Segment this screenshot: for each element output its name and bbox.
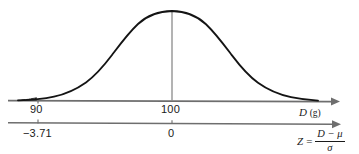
z-formula-fraction: D − μ σ [315, 129, 344, 153]
z-axis-title-variable: Z [297, 136, 303, 147]
d-axis-tick-label-100: 100 [161, 104, 180, 115]
d-axis-title-unit: (g) [310, 108, 321, 118]
z-axis-tick-label-zero: 0 [168, 128, 174, 139]
d-axis-tick-label-90: 90 [30, 104, 43, 115]
z-formula-denominator: σ [325, 142, 334, 154]
clipped-caption-strip [4, 147, 194, 153]
z-axis-tick-label-neg371: −3.71 [23, 128, 52, 139]
z-formula-numerator: D − μ [315, 129, 344, 141]
d-axis-arrowhead [331, 98, 340, 106]
z-axis-line [8, 123, 332, 124]
normal-distribution-figure: 90 100 −3.71 0 D (g) Z = D − μ σ [0, 0, 359, 153]
normal-curve [18, 11, 318, 101]
d-axis-line [8, 101, 331, 102]
d-axis-title: D (g) [299, 107, 321, 119]
z-axis-title: Z = D − μ σ [297, 129, 345, 153]
z-axis-arrowhead [332, 120, 341, 128]
z-axis-title-equals: = [306, 136, 312, 147]
d-axis-title-variable: D [299, 106, 307, 118]
